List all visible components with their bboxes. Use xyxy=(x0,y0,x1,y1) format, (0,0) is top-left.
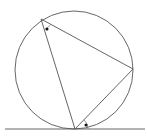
circumcircle xyxy=(15,11,133,129)
chord-cb xyxy=(75,69,133,129)
tangent-chord-diagram xyxy=(0,0,147,139)
angle-dot-a xyxy=(46,28,49,31)
chord-ac xyxy=(41,19,75,129)
angle-dot-c xyxy=(85,124,88,127)
chord-ab xyxy=(41,19,133,69)
